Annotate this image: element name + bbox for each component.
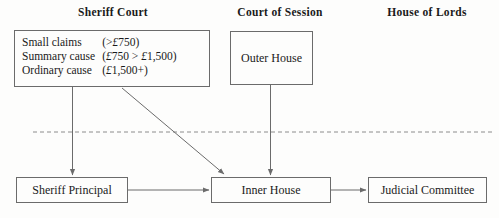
range-middle: 1,500+) bbox=[112, 64, 148, 76]
node-sheriff-principal-label: Sheriff Principal bbox=[17, 183, 127, 198]
range-prefix: (> bbox=[102, 36, 112, 48]
claim-range-small-claims: (>£750) bbox=[102, 35, 177, 49]
column-header-house-of-lords: House of Lords bbox=[364, 6, 490, 18]
range-suffix: 1,500) bbox=[147, 50, 177, 62]
claim-type-small-claims: Small claims bbox=[22, 35, 102, 49]
range-middle: 750 > bbox=[112, 50, 142, 62]
node-inner-house: Inner House bbox=[211, 177, 331, 203]
claim-range-summary-cause: (£750 > £1,500) bbox=[102, 49, 177, 63]
node-sheriff-principal: Sheriff Principal bbox=[16, 177, 128, 203]
range-middle: 750) bbox=[118, 36, 139, 48]
claim-range-ordinary-cause: (£1,500+) bbox=[102, 63, 177, 77]
node-outer-house-label: Outer House bbox=[231, 51, 312, 66]
claim-type-summary-cause: Summary cause bbox=[22, 49, 102, 63]
court-hierarchy-diagram: Sheriff Court Court of Session House of … bbox=[0, 0, 499, 218]
node-outer-house: Outer House bbox=[230, 31, 313, 85]
claim-type-ordinary-cause: Ordinary cause bbox=[22, 63, 102, 77]
column-header-sheriff-court: Sheriff Court bbox=[48, 6, 178, 18]
table-row: Summary cause (£750 > £1,500) bbox=[22, 49, 177, 63]
node-judicial-committee-label: Judicial Committee bbox=[369, 183, 486, 198]
claims-table: Small claims (>£750) Summary cause (£750… bbox=[22, 35, 177, 77]
node-inner-house-label: Inner House bbox=[212, 183, 330, 198]
node-sheriff-court-claims: Small claims (>£750) Summary cause (£750… bbox=[14, 30, 210, 87]
node-judicial-committee: Judicial Committee bbox=[368, 177, 487, 203]
column-header-court-of-session: Court of Session bbox=[218, 6, 342, 18]
table-row: Small claims (>£750) bbox=[22, 35, 177, 49]
table-row: Ordinary cause (£1,500+) bbox=[22, 63, 177, 77]
arrow-sheriff-court-to-inner-house bbox=[122, 88, 224, 174]
